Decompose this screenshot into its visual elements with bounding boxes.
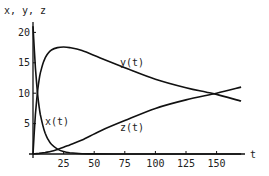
y-tick-label: 15 xyxy=(18,57,30,68)
curve-label-z: z(t) xyxy=(120,122,144,133)
y-tick-label: 5 xyxy=(24,118,30,129)
curve-x-of-t xyxy=(33,26,241,154)
y-tick-label: 10 xyxy=(18,88,30,99)
x-axis-title: t xyxy=(250,149,256,160)
curve-label-y: y(t) xyxy=(120,57,144,68)
x-tick-label: 125 xyxy=(177,158,195,169)
curve-label-x: x(t) xyxy=(45,116,69,127)
x-tick-label: 150 xyxy=(208,158,226,169)
y-tick-label: 20 xyxy=(18,27,30,38)
line-chart: x, y, z t 255075100125150 5101520 x(t) y… xyxy=(0,0,269,176)
y-axis-title: x, y, z xyxy=(4,5,46,16)
x-tick-label: 50 xyxy=(88,158,100,169)
x-tick-label: 25 xyxy=(58,158,70,169)
x-tick-label: 75 xyxy=(119,158,131,169)
x-tick-label: 100 xyxy=(146,158,164,169)
